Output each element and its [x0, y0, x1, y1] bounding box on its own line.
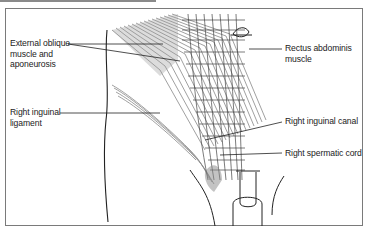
label-line: Right inguinal canal — [285, 116, 358, 127]
label-line: aponeurosis — [10, 59, 70, 70]
label-rectus-abdominis: Rectus abdominis muscle — [285, 43, 352, 64]
label-spermatic-cord: Right spermatic cord — [285, 148, 362, 159]
label-line: Right spermatic cord — [285, 148, 362, 159]
leader-spermatic-cord — [220, 153, 282, 155]
label-line: Rectus abdominis — [285, 43, 352, 54]
body-contour-left — [105, 30, 108, 222]
spermatic-cord-shape — [205, 165, 222, 192]
label-line: ligament — [10, 118, 61, 129]
label-external-oblique: External oblique muscle and aponeurosis — [10, 38, 70, 70]
label-line: External oblique — [10, 38, 70, 49]
label-inguinal-canal: Right inguinal canal — [285, 116, 358, 127]
muscle-shading — [112, 14, 178, 76]
umbilicus-icon — [231, 28, 252, 37]
label-line: muscle — [285, 54, 352, 65]
label-line: Right inguinal — [10, 107, 61, 118]
label-inguinal-ligament: Right inguinal ligament — [10, 107, 61, 128]
lower-body-outline — [190, 170, 284, 226]
label-line: muscle and — [10, 49, 70, 60]
